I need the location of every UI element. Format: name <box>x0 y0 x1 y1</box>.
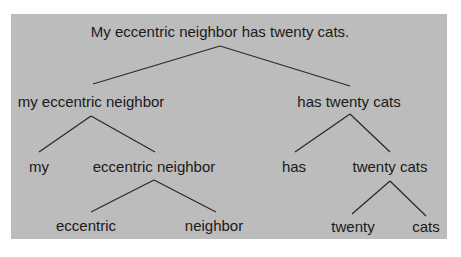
node-subject-phrase: my eccentric neighbor <box>18 94 165 109</box>
node-has: has <box>282 159 306 174</box>
edge-np-en <box>91 116 155 152</box>
node-neighbor: neighbor <box>185 218 243 233</box>
edge-tc-cats <box>390 181 426 216</box>
node-root: My eccentric neighbor has twenty cats. <box>91 24 349 39</box>
node-twenty: twenty <box>331 219 374 234</box>
edge-root-np <box>93 46 220 84</box>
node-predicate-phrase: has twenty cats <box>297 94 400 109</box>
node-eccentric: eccentric <box>56 218 116 233</box>
edge-vp-has <box>295 114 350 152</box>
edge-tc-twenty <box>352 181 390 214</box>
edge-vp-tc <box>350 114 390 152</box>
edge-en-neighbor <box>154 180 216 212</box>
edge-root-vp <box>220 46 350 86</box>
node-cats: cats <box>412 219 440 234</box>
edge-en-eccentric <box>91 180 154 212</box>
node-twenty-cats: twenty cats <box>352 159 427 174</box>
node-eccentric-neighbor: eccentric neighbor <box>93 159 216 174</box>
node-my: my <box>29 159 49 174</box>
edge-np-my <box>39 116 91 152</box>
